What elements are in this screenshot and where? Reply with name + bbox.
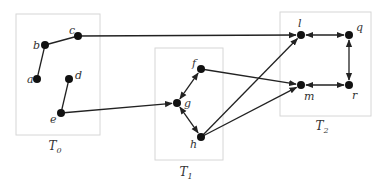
node-label-g: g <box>184 97 191 110</box>
node-label-f: f <box>191 57 198 70</box>
node-l <box>297 31 305 39</box>
edge-g-f <box>180 73 198 99</box>
edge-c-l <box>78 35 296 36</box>
tree-diagram: T0T1T2 abcdefghlmqr <box>0 0 392 186</box>
group-label-T1: T1 <box>179 165 192 181</box>
node-g <box>173 99 181 107</box>
node-m <box>297 81 305 89</box>
node-label-l: l <box>298 17 302 30</box>
node-label-q: q <box>356 21 363 34</box>
node-c <box>74 32 82 40</box>
node-b <box>41 41 49 49</box>
group-label-T2: T2 <box>315 119 328 135</box>
node-label-r: r <box>352 89 358 102</box>
node-label-b: b <box>33 39 40 52</box>
node-label-e: e <box>50 113 57 126</box>
node-f <box>197 65 205 73</box>
node-e <box>57 109 65 117</box>
node-label-c: c <box>69 24 75 37</box>
edge-h-l <box>201 39 297 137</box>
node-label-h: h <box>190 138 197 151</box>
group-label-T0: T0 <box>48 139 61 155</box>
node-a <box>33 75 41 83</box>
edge-g-h <box>180 107 198 133</box>
subtree-boxes: T0T1T2 <box>16 12 371 181</box>
node-d <box>65 75 73 83</box>
node-label-a: a <box>27 73 34 86</box>
node-h <box>197 133 205 141</box>
edge-b-c <box>45 36 78 45</box>
node-r <box>345 81 353 89</box>
node-q <box>345 31 353 39</box>
edge-h-m <box>201 87 297 137</box>
node-label-m: m <box>304 90 314 103</box>
edge-d-e <box>61 79 69 113</box>
nodes: abcdefghlmqr <box>27 17 363 151</box>
node-label-d: d <box>75 69 82 82</box>
edge-f-m <box>201 69 296 84</box>
